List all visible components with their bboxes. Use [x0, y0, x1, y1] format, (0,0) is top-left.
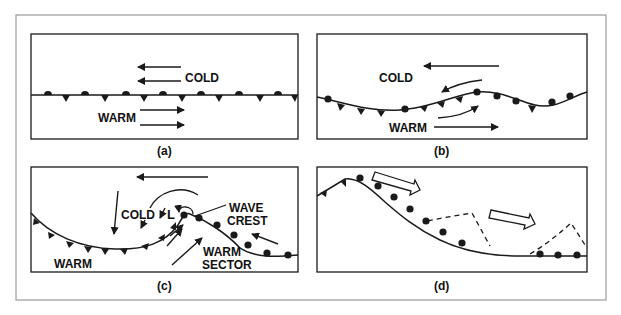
cold-front-triangles [62, 95, 298, 102]
panel-c: COLD L WAVE CREST WARM WARM SECTOR (c) [31, 167, 298, 293]
low-pressure-label: L [167, 207, 175, 222]
wave-crest-pointer [195, 205, 226, 216]
panel-b: COLD WARM (b) [317, 34, 587, 158]
cold-air-label: COLD [379, 71, 413, 85]
hollow-movement-arrow [489, 210, 535, 229]
warm-air-label: WARM [389, 121, 427, 135]
cold-front-triangles [337, 96, 536, 117]
cold-air-label: COLD [121, 208, 155, 222]
warm-air-label: WARM [98, 111, 136, 125]
panel-d: (d) [317, 167, 587, 293]
outer-frame [16, 15, 606, 300]
cold-front-triangles [320, 179, 346, 197]
panel-d-caption: (d) [434, 279, 449, 293]
panel-c-caption: (c) [157, 279, 172, 293]
panel-a-caption: (a) [157, 144, 172, 158]
warm-sector-label: WARM [203, 245, 241, 259]
warm-sector-label: SECTOR [202, 258, 252, 272]
circulation-arrow-head [160, 208, 165, 218]
warm-air-label: WARM [54, 257, 92, 271]
circulation-arrow [150, 190, 198, 208]
cold-front-triangles [33, 218, 176, 255]
warm-front-bumps [356, 174, 580, 258]
warm-curved-arrow [438, 106, 478, 118]
cold-air-label: COLD [185, 71, 219, 85]
wave-front [317, 92, 587, 111]
front-line [317, 179, 587, 256]
wave-crest-label: CREST [227, 214, 268, 228]
easterly-arrow [252, 234, 278, 244]
panel-b-caption: (b) [434, 144, 449, 158]
panel-a-border [31, 34, 298, 139]
wave-crest-label: WAVE [229, 201, 263, 215]
future-wave-dashed [530, 223, 587, 254]
descending-cold-arrow [114, 191, 118, 234]
panel-a: COLD WARM (a) [31, 34, 298, 158]
frontal-wave-figure: COLD WARM (a) COLD WA [0, 0, 621, 315]
warm-sector-arrow [172, 238, 202, 265]
